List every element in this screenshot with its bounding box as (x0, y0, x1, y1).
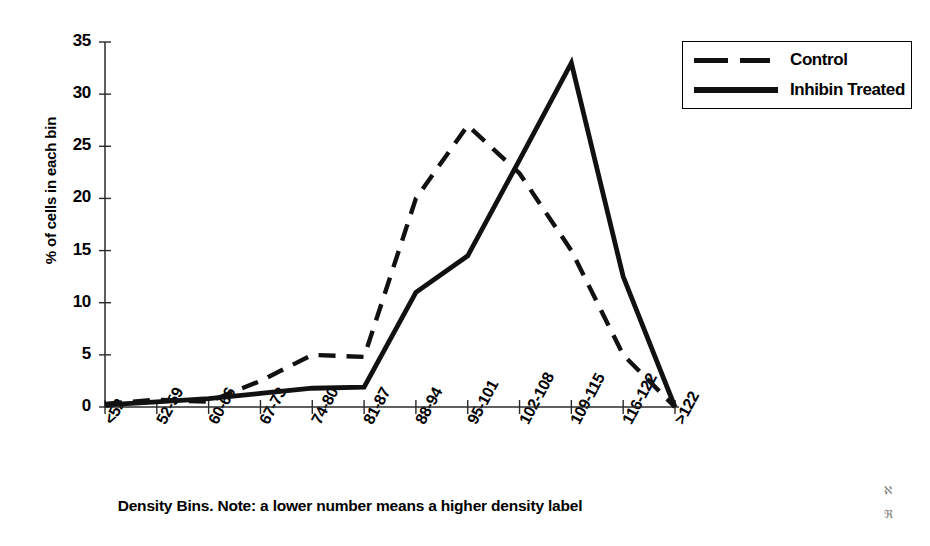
series-line-control (105, 125, 675, 407)
scan-artifact-mark-2: ℜ (884, 508, 893, 521)
legend-item-control: Control (683, 45, 911, 75)
legend-swatch-solid (692, 83, 786, 97)
legend: Control Inhibin Treated (682, 41, 912, 109)
legend-swatch-dashed (692, 53, 786, 67)
scan-artifact-mark-1: ℵ (884, 484, 892, 497)
chart-container: % of cells in each bin 05101520253035 <5… (0, 0, 930, 546)
series-line-inhibin-treated (105, 63, 675, 407)
legend-label-inhibin-treated: Inhibin Treated (790, 80, 905, 100)
legend-label-control: Control (790, 50, 848, 70)
x-axis-title: Density Bins. Note: a lower number means… (0, 497, 700, 515)
legend-item-inhibin-treated: Inhibin Treated (683, 75, 911, 105)
